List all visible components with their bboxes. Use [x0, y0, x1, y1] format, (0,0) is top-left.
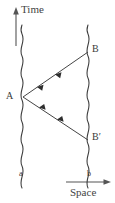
up-arrow-icon	[13, 7, 19, 46]
worldline-a	[21, 25, 23, 188]
signal-B-to-A	[23, 52, 88, 97]
worldline-label-a: a	[19, 170, 23, 178]
signal-B-to-A-arrowhead-2	[37, 85, 44, 91]
event-label-B: B	[92, 44, 99, 54]
signal-Bprime-to-A	[23, 97, 88, 140]
space-axis-arrowhead	[104, 179, 112, 185]
signal-Bprime-to-A-line	[23, 97, 88, 140]
time-axis-arrowhead	[13, 7, 19, 15]
signal-B-to-A-arrowhead-1	[55, 72, 62, 78]
worldline-label-b: b	[87, 170, 91, 178]
space-axis-label: Space	[70, 187, 96, 198]
right-arrow-icon	[66, 179, 111, 185]
signal-Bprime-to-A-arrowhead-1	[57, 116, 64, 122]
event-label-A: A	[6, 91, 13, 101]
diagram-canvas	[0, 0, 115, 203]
worldline-b	[87, 25, 89, 188]
event-label-B-prime: B′	[92, 132, 101, 142]
time-axis-label: Time	[21, 4, 44, 15]
spacetime-diagram: Time Space A B B′ a b	[0, 0, 115, 203]
signal-Bprime-to-A-arrowhead-2	[39, 104, 46, 110]
